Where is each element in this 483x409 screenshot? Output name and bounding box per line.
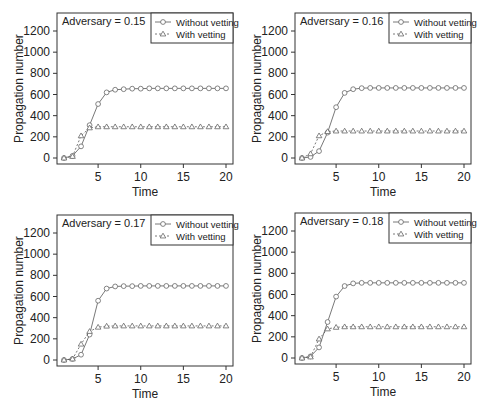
circle-marker-icon bbox=[453, 86, 458, 91]
triangle-marker-icon bbox=[87, 329, 93, 334]
x-tick-label: 10 bbox=[372, 370, 386, 384]
circle-marker-icon bbox=[427, 280, 432, 285]
circle-marker-icon bbox=[410, 86, 415, 91]
triangle-marker-icon bbox=[384, 128, 390, 133]
triangle-marker-icon bbox=[393, 128, 399, 133]
chart-panels: 0200400600800100012005101520TimePropagat… bbox=[0, 0, 483, 409]
series-line-without-vetting bbox=[64, 286, 226, 360]
triangle-marker-icon bbox=[206, 124, 212, 129]
triangle-marker-icon bbox=[112, 323, 118, 328]
legend-label: With vetting bbox=[176, 29, 226, 40]
circle-marker-icon bbox=[121, 87, 126, 92]
y-tick-label: 200 bbox=[268, 130, 288, 144]
x-axis-label: Time bbox=[370, 185, 397, 199]
circle-marker-icon bbox=[334, 294, 339, 299]
y-tick-label: 600 bbox=[268, 88, 288, 102]
triangle-marker-icon bbox=[164, 124, 170, 129]
circle-marker-icon bbox=[385, 86, 390, 91]
circle-marker-icon bbox=[172, 86, 177, 91]
triangle-marker-icon bbox=[215, 124, 221, 129]
circle-marker-icon bbox=[96, 102, 101, 107]
triangle-marker-icon bbox=[198, 323, 204, 328]
triangle-marker-icon bbox=[155, 124, 161, 129]
panel-title: Adversary = 0.17 bbox=[62, 217, 145, 229]
triangle-marker-icon bbox=[333, 128, 339, 133]
y-axis-label: Propagation number bbox=[12, 34, 26, 143]
circle-marker-icon bbox=[359, 280, 364, 285]
panel-title: Adversary = 0.16 bbox=[300, 15, 383, 27]
x-tick-label: 10 bbox=[372, 170, 386, 184]
circle-marker-icon bbox=[453, 280, 458, 285]
triangle-marker-icon bbox=[138, 124, 144, 129]
triangle-marker-icon bbox=[350, 324, 356, 329]
circle-marker-icon bbox=[436, 86, 441, 91]
triangle-marker-icon bbox=[78, 341, 84, 346]
chart-panel-4: 0200400600800100012005101520TimePropagat… bbox=[250, 213, 477, 399]
circle-marker-icon bbox=[393, 86, 398, 91]
circle-marker-icon bbox=[325, 320, 330, 325]
circle-marker-icon bbox=[164, 284, 169, 289]
chart-panel-1: 0200400600800100012005101520TimePropagat… bbox=[12, 13, 239, 199]
circle-marker-icon bbox=[342, 91, 347, 96]
y-tick-label: 800 bbox=[30, 66, 50, 80]
triangle-marker-icon bbox=[112, 124, 118, 129]
y-tick-label: 1200 bbox=[23, 226, 50, 240]
circle-marker-icon bbox=[419, 86, 424, 91]
triangle-marker-icon bbox=[316, 133, 322, 138]
triangle-marker-icon bbox=[427, 128, 433, 133]
y-tick-label: 400 bbox=[268, 309, 288, 323]
circle-marker-icon bbox=[317, 345, 322, 350]
y-tick-label: 800 bbox=[30, 268, 50, 282]
circle-marker-icon bbox=[207, 284, 212, 289]
triangle-marker-icon bbox=[350, 128, 356, 133]
legend-label: Without vetting bbox=[414, 217, 477, 228]
circle-marker-icon bbox=[96, 298, 101, 303]
circle-marker-icon bbox=[393, 280, 398, 285]
circle-marker-icon bbox=[419, 280, 424, 285]
y-tick-label: 0 bbox=[281, 151, 288, 165]
x-tick-label: 20 bbox=[219, 372, 233, 386]
circle-marker-icon bbox=[462, 86, 467, 91]
x-axis-label: Time bbox=[132, 387, 159, 401]
triangle-marker-icon bbox=[359, 324, 365, 329]
y-tick-label: 200 bbox=[30, 130, 50, 144]
x-axis-label: Time bbox=[370, 385, 397, 399]
circle-legend-icon bbox=[161, 222, 166, 227]
circle-marker-icon bbox=[155, 86, 160, 91]
triangle-marker-icon bbox=[198, 124, 204, 129]
y-tick-label: 600 bbox=[30, 290, 50, 304]
circle-marker-icon bbox=[376, 280, 381, 285]
circle-marker-icon bbox=[138, 86, 143, 91]
y-tick-label: 400 bbox=[30, 311, 50, 325]
circle-marker-icon bbox=[445, 280, 450, 285]
triangle-marker-icon bbox=[453, 128, 459, 133]
triangle-marker-icon bbox=[436, 324, 442, 329]
x-tick-label: 15 bbox=[415, 370, 429, 384]
y-tick-label: 1000 bbox=[23, 247, 50, 261]
triangle-marker-icon bbox=[359, 128, 365, 133]
triangle-marker-icon bbox=[189, 323, 195, 328]
x-tick-label: 15 bbox=[415, 170, 429, 184]
triangle-marker-icon bbox=[206, 323, 212, 328]
panel-title: Adversary = 0.18 bbox=[300, 215, 383, 227]
triangle-marker-icon bbox=[393, 324, 399, 329]
circle-marker-icon bbox=[113, 284, 118, 289]
y-tick-label: 0 bbox=[43, 353, 50, 367]
chart-panel-3: 0200400600800100012005101520TimePropagat… bbox=[12, 215, 239, 401]
circle-marker-icon bbox=[342, 284, 347, 289]
x-tick-label: 20 bbox=[457, 170, 471, 184]
triangle-marker-icon bbox=[129, 124, 135, 129]
triangle-marker-icon bbox=[308, 151, 314, 156]
triangle-marker-icon bbox=[104, 124, 110, 129]
circle-marker-icon bbox=[207, 86, 212, 91]
triangle-marker-icon bbox=[121, 323, 127, 328]
figure-grid: 0200400600800100012005101520TimePropagat… bbox=[0, 0, 483, 409]
circle-legend-icon bbox=[161, 20, 166, 25]
triangle-marker-icon bbox=[316, 336, 322, 341]
legend: Without vettingWith vetting bbox=[389, 213, 477, 243]
circle-marker-icon bbox=[189, 284, 194, 289]
circle-marker-icon bbox=[427, 86, 432, 91]
circle-marker-icon bbox=[402, 86, 407, 91]
triangle-marker-icon bbox=[410, 324, 416, 329]
legend-label: With vetting bbox=[414, 229, 464, 240]
